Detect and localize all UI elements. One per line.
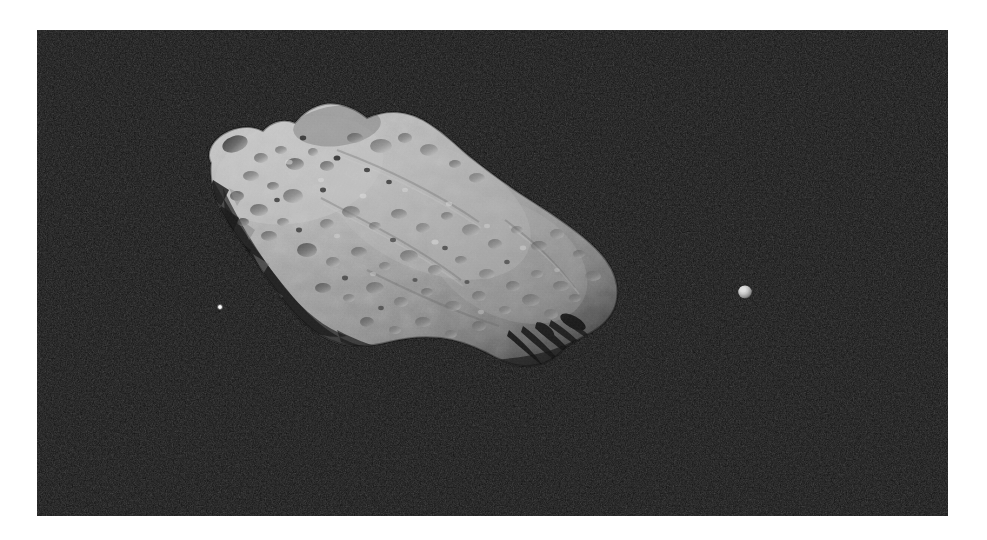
asteroid-object bbox=[187, 90, 647, 390]
asteroid-layer bbox=[37, 30, 948, 516]
object-label-asteroid: large irregular cratered body bbox=[0, 0, 1, 1]
object-label-point-source: faint bright point in the sky field bbox=[0, 0, 1, 1]
image-title: asteroid with small natural satellite bbox=[0, 21, 1, 22]
object-label-moon: small satellite bbox=[0, 0, 1, 1]
asteroid-surface bbox=[187, 90, 647, 390]
screenshot-canvas: asteroid with small natural satellite bbox=[0, 0, 987, 540]
space-image-frame bbox=[37, 30, 948, 516]
